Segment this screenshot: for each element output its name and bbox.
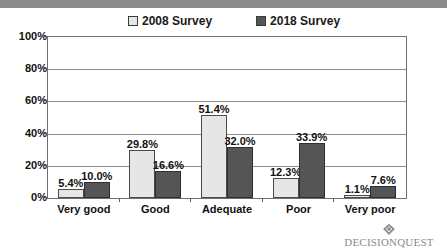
bar-2008-very-good[interactable]: 5.4% — [58, 189, 84, 198]
bar-2018-adequate[interactable]: 32.0% — [227, 147, 253, 199]
y-axis-label-80: 80% — [3, 63, 47, 74]
legend-entry-2018: 2018 Survey — [256, 15, 340, 27]
bar-2008-adequate[interactable]: 51.4% — [201, 115, 227, 198]
bar-value-label: 32.0% — [224, 135, 255, 147]
bar-value-label: 5.4% — [58, 177, 83, 189]
bar-2018-good[interactable]: 16.6% — [155, 171, 181, 198]
bar-group-very-good: 5.4% 10.0% — [48, 37, 120, 198]
top-gray-band — [0, 0, 447, 8]
x-axis-label-very-poor: Very poor — [334, 203, 406, 215]
x-axis-labels: Very good Good Adequate Poor Very poor — [48, 203, 406, 215]
bar-2008-good[interactable]: 29.8% — [129, 150, 155, 198]
bar-group-very-poor: 1.1% 7.6% — [334, 37, 406, 198]
x-axis-label-good: Good — [120, 203, 192, 215]
watermark-decisionquest: DECISIONQUEST — [337, 223, 441, 248]
bar-value-label: 16.6% — [153, 159, 184, 171]
x-axis-tick — [190, 198, 191, 202]
bar-2018-very-poor[interactable]: 7.6% — [370, 186, 396, 198]
bar-2018-poor[interactable]: 33.9% — [299, 143, 325, 198]
bar-2008-poor[interactable]: 12.3% — [273, 178, 299, 198]
bar-groups: 5.4% 10.0% 29.8% 16.6% 5 — [48, 37, 406, 198]
x-axis-tick — [333, 198, 334, 202]
y-axis-label-100: 100% — [3, 31, 47, 42]
y-axis-label-40: 40% — [3, 127, 47, 138]
x-axis-tick — [262, 198, 263, 202]
legend-swatch-2018-icon — [256, 16, 266, 26]
diamond-logo-icon — [380, 223, 398, 236]
bar-value-label: 29.8% — [127, 138, 158, 150]
legend-entry-2008: 2008 Survey — [128, 15, 212, 27]
bar-value-label: 51.4% — [198, 103, 229, 115]
legend-label-2018: 2018 Survey — [270, 15, 340, 27]
legend-swatch-2008-icon — [128, 16, 138, 26]
bar-value-label: 1.1% — [345, 183, 370, 195]
chart-legend: 2008 Survey 2018 Survey — [128, 13, 340, 29]
legend-label-2008: 2008 Survey — [142, 15, 212, 27]
y-axis-label-20: 20% — [3, 159, 47, 170]
y-axis: 100% 80% 60% 40% 20% 0% — [0, 36, 47, 199]
x-axis-label-poor: Poor — [263, 203, 335, 215]
chart-screenshot: 2008 Survey 2018 Survey 100% 80% 60% 40%… — [0, 0, 447, 251]
bar-value-label: 12.3% — [270, 166, 301, 178]
x-axis-tick — [119, 198, 120, 202]
y-axis-label-60: 60% — [3, 95, 47, 106]
bar-2008-very-poor[interactable]: 1.1% — [344, 195, 370, 198]
bar-value-label: 10.0% — [81, 170, 112, 182]
bar-value-label: 7.6% — [371, 174, 396, 186]
x-axis-label-very-good: Very good — [48, 203, 120, 215]
x-axis-label-adequate: Adequate — [191, 203, 263, 215]
watermark-text: DECISIONQUEST — [337, 237, 441, 248]
bar-group-poor: 12.3% 33.9% — [263, 37, 335, 198]
bar-group-adequate: 51.4% 32.0% — [191, 37, 263, 198]
bar-value-label: 33.9% — [296, 131, 327, 143]
bar-group-good: 29.8% 16.6% — [120, 37, 192, 198]
y-axis-label-0: 0% — [3, 192, 47, 203]
bar-2018-very-good[interactable]: 10.0% — [84, 182, 110, 198]
